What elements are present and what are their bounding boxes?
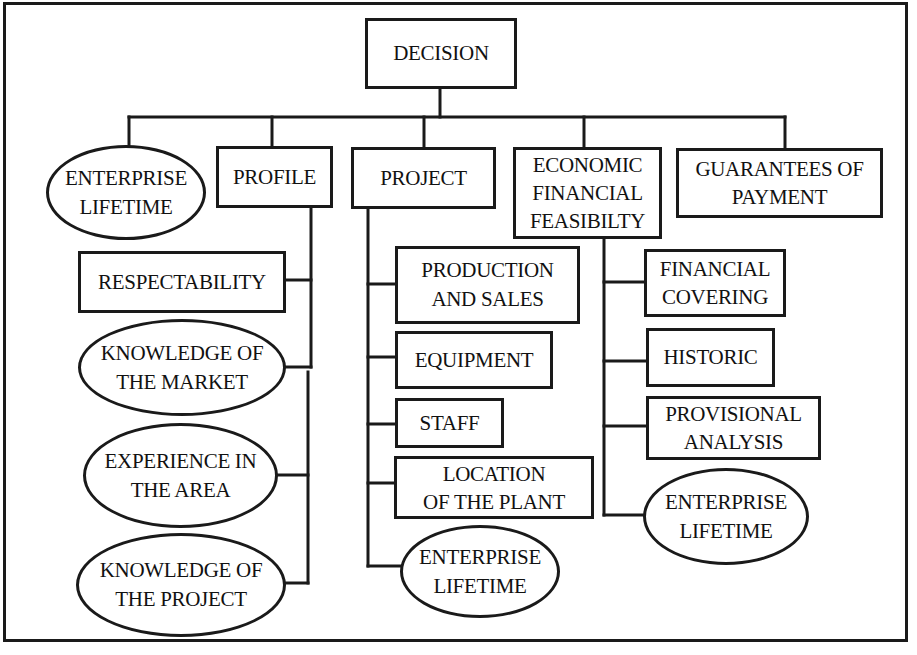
node-label: EXPERIENCE IN [105, 447, 257, 476]
node-label: LIFETIME [79, 193, 172, 222]
provisional-analysis-node: PROVISIONAL ANALYSIS [646, 396, 821, 460]
node-label: GUARANTEES OF [695, 155, 863, 183]
decision-node: DECISION [365, 18, 517, 89]
historic-node: HISTORIC [646, 328, 775, 387]
node-label: COVERING [662, 283, 768, 311]
economic-financial-feasibility-node: ECONOMIC FINANCIAL FEASIBILTY [513, 147, 662, 239]
staff-node: STAFF [395, 398, 504, 448]
node-label: PRODUCTION [421, 256, 553, 285]
node-label: PAYMENT [732, 183, 828, 211]
location-of-the-plant-node: LOCATION OF THE PLANT [394, 456, 594, 519]
node-label: THE PROJECT [115, 585, 246, 614]
node-label: OF THE PLANT [423, 488, 565, 516]
node-label: THE MARKET [116, 368, 248, 397]
respectability-node: RESPECTABILITY [78, 251, 286, 313]
enterprise-lifetime-node: ENTERPRISE LIFETIME [46, 145, 206, 240]
node-label: PROVISIONAL [665, 400, 802, 428]
node-label: ANALYSIS [684, 428, 783, 456]
node-label: THE AREA [131, 476, 231, 505]
node-label: KNOWLEDGE OF [101, 339, 264, 368]
node-label: STAFF [420, 409, 480, 438]
node-label: FINANCIAL [532, 179, 642, 207]
profile-node: PROFILE [216, 146, 333, 208]
node-label: EQUIPMENT [415, 346, 534, 375]
node-label: ENTERPRISE [665, 488, 787, 517]
knowledge-of-the-market-node: KNOWLEDGE OF THE MARKET [78, 319, 286, 416]
node-label: AND SALES [431, 285, 543, 314]
production-and-sales-node: PRODUCTION AND SALES [395, 246, 580, 324]
project-node: PROJECT [351, 147, 496, 209]
node-label: FINANCIAL [660, 255, 770, 283]
project-enterprise-lifetime-node: ENTERPRISE LIFETIME [400, 525, 560, 618]
financial-covering-node: FINANCIAL COVERING [644, 249, 786, 317]
node-label: ENTERPRISE [65, 164, 187, 193]
node-label: LOCATION [443, 460, 546, 488]
node-label: LIFETIME [679, 517, 772, 546]
node-label: LIFETIME [433, 572, 526, 601]
node-label: DECISION [393, 39, 489, 68]
knowledge-of-the-project-node: KNOWLEDGE OF THE PROJECT [76, 533, 286, 637]
guarantees-of-payment-node: GUARANTEES OF PAYMENT [676, 148, 883, 218]
node-label: RESPECTABILITY [98, 268, 266, 297]
node-label: HISTORIC [663, 343, 757, 372]
economic-enterprise-lifetime-node: ENTERPRISE LIFETIME [643, 468, 809, 565]
node-label: ECONOMIC [533, 151, 643, 179]
equipment-node: EQUIPMENT [395, 331, 553, 389]
node-label: KNOWLEDGE OF [100, 556, 263, 585]
experience-in-the-area-node: EXPERIENCE IN THE AREA [83, 423, 278, 528]
node-label: PROFILE [233, 163, 316, 192]
node-label: FEASIBILTY [530, 207, 645, 235]
node-label: ENTERPRISE [419, 543, 541, 572]
node-label: PROJECT [380, 164, 467, 193]
